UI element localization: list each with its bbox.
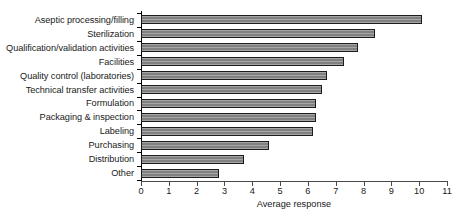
category-label: Purchasing <box>89 140 134 150</box>
bar <box>141 43 358 52</box>
category-label: Distribution <box>89 154 134 164</box>
category-label-row: Labeling <box>0 124 138 138</box>
bar-row <box>141 55 447 69</box>
x-axis-tick-label: 11 <box>442 186 452 197</box>
x-axis-tick-label: 7 <box>333 186 338 197</box>
bar <box>141 57 344 66</box>
bar <box>141 141 269 150</box>
bar-rows <box>141 13 447 180</box>
x-axis-tick-label: 10 <box>414 186 424 197</box>
category-label: Qualification/validation activities <box>6 43 134 53</box>
bar-row <box>141 27 447 41</box>
category-label-row: Quality control (laboratories) <box>0 69 138 83</box>
x-axis-tick <box>364 182 365 186</box>
x-axis-tick <box>197 182 198 186</box>
x-axis-tick-label: 4 <box>250 186 255 197</box>
category-label: Technical transfer activities <box>26 85 134 95</box>
category-label-row: Formulation <box>0 97 138 111</box>
bar-row <box>141 97 447 111</box>
x-axis-tick <box>308 182 309 186</box>
bar <box>141 71 327 80</box>
x-axis-tick-label: 0 <box>138 186 143 197</box>
bar-row <box>141 166 447 180</box>
category-label-row: Distribution <box>0 152 138 166</box>
x-axis-tick <box>169 182 170 186</box>
category-label-row: Sterilization <box>0 27 138 41</box>
category-label-row: Other <box>0 166 138 180</box>
x-axis-tick-labels: 01234567891011 <box>141 186 447 198</box>
x-axis-tick <box>224 182 225 186</box>
category-label: Formulation <box>86 98 134 108</box>
x-axis-tick <box>336 182 337 186</box>
x-axis-tick <box>141 182 142 186</box>
bar-row <box>141 69 447 83</box>
bar-chart: Aseptic processing/fillingSterilizationQ… <box>0 0 457 221</box>
bar-row <box>141 41 447 55</box>
x-axis-tick-label: 8 <box>361 186 366 197</box>
bar <box>141 127 313 136</box>
bar-row <box>141 13 447 27</box>
plot-area <box>141 13 447 180</box>
x-axis-tick <box>447 182 448 186</box>
category-label: Facilities <box>99 57 134 67</box>
x-axis-tick <box>419 182 420 186</box>
x-axis-title: Average response <box>141 199 447 209</box>
bar <box>141 169 219 178</box>
category-label-row: Purchasing <box>0 138 138 152</box>
x-axis-tick-label: 3 <box>222 186 227 197</box>
bar-row <box>141 83 447 97</box>
category-label: Packaging & inspection <box>40 112 134 122</box>
category-axis-labels: Aseptic processing/fillingSterilizationQ… <box>0 13 138 180</box>
category-label: Aseptic processing/filling <box>35 15 134 25</box>
bar <box>141 155 244 164</box>
category-label-row: Packaging & inspection <box>0 110 138 124</box>
bar <box>141 99 316 108</box>
x-axis-tick-label: 1 <box>166 186 171 197</box>
bar-row <box>141 138 447 152</box>
bar <box>141 15 422 24</box>
x-axis-tick-label: 9 <box>389 186 394 197</box>
x-axis-tick-label: 2 <box>194 186 199 197</box>
category-label: Sterilization <box>87 29 134 39</box>
bar-row <box>141 152 447 166</box>
bar <box>141 113 316 122</box>
x-axis-tick-label: 6 <box>305 186 310 197</box>
category-label-row: Qualification/validation activities <box>0 41 138 55</box>
bar-row <box>141 110 447 124</box>
x-axis-tick-label: 5 <box>278 186 283 197</box>
category-label: Other <box>111 168 134 178</box>
category-label-row: Aseptic processing/filling <box>0 13 138 27</box>
category-label-row: Facilities <box>0 55 138 69</box>
category-label: Labeling <box>100 126 134 136</box>
bar <box>141 85 322 94</box>
bar-row <box>141 124 447 138</box>
x-axis-tick <box>252 182 253 186</box>
category-label: Quality control (laboratories) <box>20 71 134 81</box>
bar <box>141 29 375 38</box>
x-axis-tick <box>280 182 281 186</box>
category-label-row: Technical transfer activities <box>0 83 138 97</box>
x-axis-tick <box>391 182 392 186</box>
